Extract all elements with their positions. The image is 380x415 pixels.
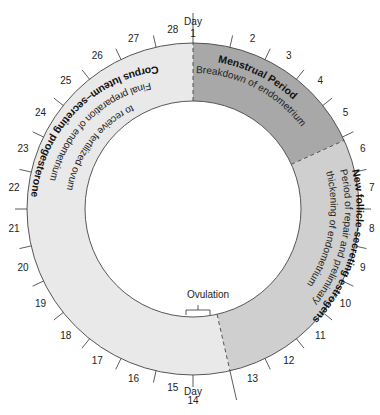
day-tick bbox=[265, 359, 270, 370]
day-tick bbox=[323, 98, 332, 105]
day-number: 17 bbox=[92, 355, 104, 366]
day-number: 7 bbox=[369, 182, 375, 193]
day-number: 6 bbox=[360, 143, 366, 154]
day-number: 16 bbox=[128, 373, 140, 384]
day-14-label: Day bbox=[184, 386, 202, 397]
day-number: 10 bbox=[340, 298, 352, 309]
day-tick bbox=[19, 246, 31, 249]
day-number: 20 bbox=[18, 262, 30, 273]
day-number: 22 bbox=[9, 182, 21, 193]
day-tick bbox=[230, 371, 237, 400]
day-tick bbox=[116, 49, 121, 60]
day-tick bbox=[343, 132, 354, 137]
day-number: 23 bbox=[18, 143, 30, 154]
day-number: 25 bbox=[60, 75, 72, 86]
day-tick bbox=[296, 339, 303, 348]
day-tick bbox=[54, 98, 63, 105]
day-tick bbox=[33, 281, 44, 286]
day-tick bbox=[82, 70, 89, 79]
day-tick bbox=[33, 132, 44, 137]
day-number: 9 bbox=[360, 262, 366, 273]
day-number: 5 bbox=[343, 107, 349, 118]
day-number: 1 bbox=[190, 28, 196, 39]
day-tick bbox=[54, 312, 63, 319]
day-number: 15 bbox=[167, 382, 179, 393]
ovulation-label: Ovulation bbox=[187, 289, 229, 300]
day-number: 28 bbox=[167, 24, 179, 35]
day-number: 8 bbox=[369, 223, 375, 234]
day-number: 24 bbox=[35, 107, 47, 118]
day-tick bbox=[296, 70, 303, 79]
day-tick bbox=[230, 35, 233, 47]
day-tick bbox=[153, 371, 156, 383]
day-1-label: Day bbox=[184, 16, 202, 27]
day-number: 4 bbox=[317, 75, 323, 86]
day-tick bbox=[82, 339, 89, 348]
day-number: 21 bbox=[9, 223, 21, 234]
day-number: 19 bbox=[35, 298, 47, 309]
cycle-ring bbox=[27, 43, 359, 375]
inner-ring-edge bbox=[85, 101, 301, 317]
menstrual-cycle-diagram: 1234567891011121314151617181920212223242… bbox=[0, 0, 380, 415]
day-number: 2 bbox=[250, 33, 256, 44]
day-number: 18 bbox=[60, 330, 72, 341]
day-number: 27 bbox=[128, 33, 140, 44]
day-tick bbox=[116, 359, 121, 370]
day-number: 26 bbox=[92, 50, 104, 61]
day-number: 13 bbox=[247, 373, 259, 384]
day-number: 12 bbox=[283, 355, 295, 366]
day-tick bbox=[265, 49, 270, 60]
day-number: 11 bbox=[315, 330, 326, 341]
day-tick bbox=[19, 169, 31, 172]
day-number: 3 bbox=[286, 50, 292, 61]
day-tick bbox=[153, 35, 156, 47]
